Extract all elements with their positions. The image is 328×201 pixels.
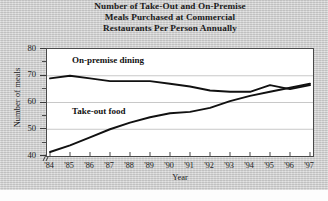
y-tick-label: 50 xyxy=(14,123,36,133)
x-tick-label: '86 xyxy=(78,161,100,170)
chart-title-line-3: Restaurants Per Person Annually xyxy=(40,23,300,34)
series-line-1 xyxy=(50,76,310,92)
x-tick-label: '90 xyxy=(158,161,180,170)
series-line-2 xyxy=(50,84,310,152)
x-tick-label: '88 xyxy=(118,161,140,170)
x-tick-label: '91 xyxy=(178,161,200,170)
y-tick-label: 70 xyxy=(14,69,36,79)
x-axis-label: Year xyxy=(46,173,314,182)
chart-title-line-1: Number of Take-Out and On-Premise xyxy=(40,1,300,12)
y-tick-label: 80 xyxy=(14,43,36,53)
x-tick-label: '96 xyxy=(278,161,300,170)
x-tick-label: '89 xyxy=(138,161,160,170)
x-tick-label: '93 xyxy=(218,161,240,170)
x-axis-tick-marks xyxy=(50,152,310,156)
x-tick-label: '87 xyxy=(98,161,120,170)
x-tick-label: '85 xyxy=(58,161,80,170)
figure-bottom-margin xyxy=(0,190,328,201)
chart-title-line-2: Meals Purchased at Commercial xyxy=(40,12,300,23)
series-label-2: Take-out food xyxy=(72,106,125,116)
x-tick-label: '92 xyxy=(198,161,220,170)
x-tick-label: '84 xyxy=(38,161,60,170)
series-label-1: On-premise dining xyxy=(72,55,144,65)
y-tick-label: 40 xyxy=(14,150,36,160)
chart-title: Number of Take-Out and On-Premise Meals … xyxy=(40,1,300,35)
x-tick-label: '94 xyxy=(238,161,260,170)
chart-figure: Number of Take-Out and On-Premise Meals … xyxy=(0,0,328,190)
x-tick-label: '95 xyxy=(258,161,280,170)
x-tick-label: '97 xyxy=(298,161,320,170)
gridlines xyxy=(47,76,313,130)
y-tick-label: 60 xyxy=(14,96,36,106)
